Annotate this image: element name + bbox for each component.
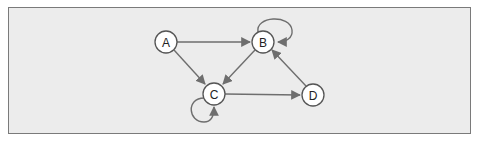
graph-canvas: A B C D (0, 0, 483, 146)
node-a-label: A (162, 36, 170, 50)
node-c: C (203, 83, 225, 105)
node-c-label: C (210, 88, 219, 102)
node-d: D (302, 84, 324, 106)
edge-b-c (223, 50, 255, 84)
edges (174, 19, 306, 122)
node-a: A (155, 31, 177, 53)
node-b-label: B (259, 36, 267, 50)
node-d-label: D (309, 89, 318, 103)
edge-a-c (174, 50, 205, 84)
edge-d-b (272, 50, 306, 86)
edge-c-d (225, 94, 300, 95)
node-b: B (252, 31, 274, 53)
